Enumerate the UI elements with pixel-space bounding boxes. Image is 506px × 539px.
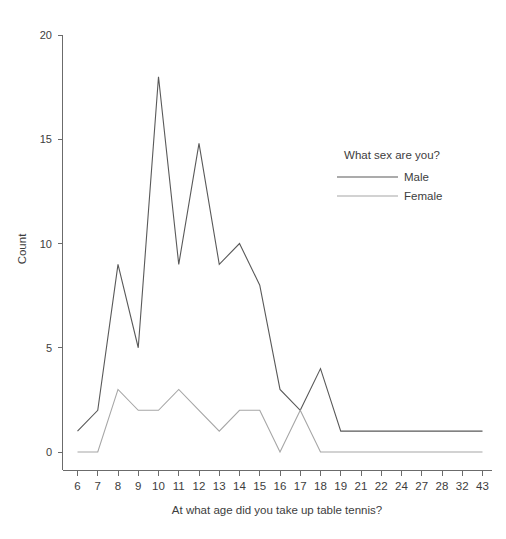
legend-title: What sex are you?	[344, 149, 440, 161]
chart-legend: What sex are you? MaleFemale	[337, 149, 442, 202]
x-tick-label: 13	[213, 480, 226, 492]
data-series-group	[78, 77, 483, 452]
x-tick-label: 32	[456, 480, 469, 492]
chart-container: 05101520 6789101112131415161718192122242…	[0, 0, 506, 539]
y-tick-label: 20	[40, 29, 52, 41]
y-tick-label: 15	[40, 133, 52, 145]
legend-label-male: Male	[404, 171, 429, 183]
x-axis-title: At what age did you take up table tennis…	[172, 504, 382, 516]
series-line-male	[78, 77, 483, 431]
x-tick-label: 21	[355, 480, 368, 492]
legend-label-female: Female	[404, 190, 442, 202]
x-tick-label: 10	[152, 480, 165, 492]
legend-entries: MaleFemale	[337, 171, 442, 202]
y-axis-ticks: 05101520	[40, 29, 63, 458]
series-line-female	[78, 389, 483, 452]
y-tick-label: 5	[46, 342, 52, 354]
x-tick-label: 28	[436, 480, 449, 492]
x-tick-label: 17	[294, 480, 307, 492]
x-tick-label: 18	[314, 480, 327, 492]
y-tick-label: 0	[46, 446, 52, 458]
x-tick-label: 11	[173, 480, 185, 492]
x-tick-label: 15	[253, 480, 266, 492]
x-tick-label: 14	[233, 480, 246, 492]
x-tick-label: 7	[95, 480, 101, 492]
x-axis-ticks: 67891011121314151617181921222427283243	[74, 471, 489, 493]
x-tick-label: 9	[135, 480, 141, 492]
x-tick-label: 24	[395, 480, 408, 492]
y-tick-label: 10	[40, 238, 52, 250]
x-tick-label: 22	[375, 480, 388, 492]
x-tick-label: 12	[193, 480, 206, 492]
line-chart: 05101520 6789101112131415161718192122242…	[0, 0, 506, 539]
x-tick-label: 27	[415, 480, 428, 492]
x-tick-label: 8	[115, 480, 121, 492]
x-tick-label: 43	[476, 480, 489, 492]
x-tick-label: 16	[274, 480, 287, 492]
y-axis-title: Count	[16, 233, 28, 264]
x-tick-label: 19	[334, 480, 347, 492]
x-tick-label: 6	[74, 480, 80, 492]
